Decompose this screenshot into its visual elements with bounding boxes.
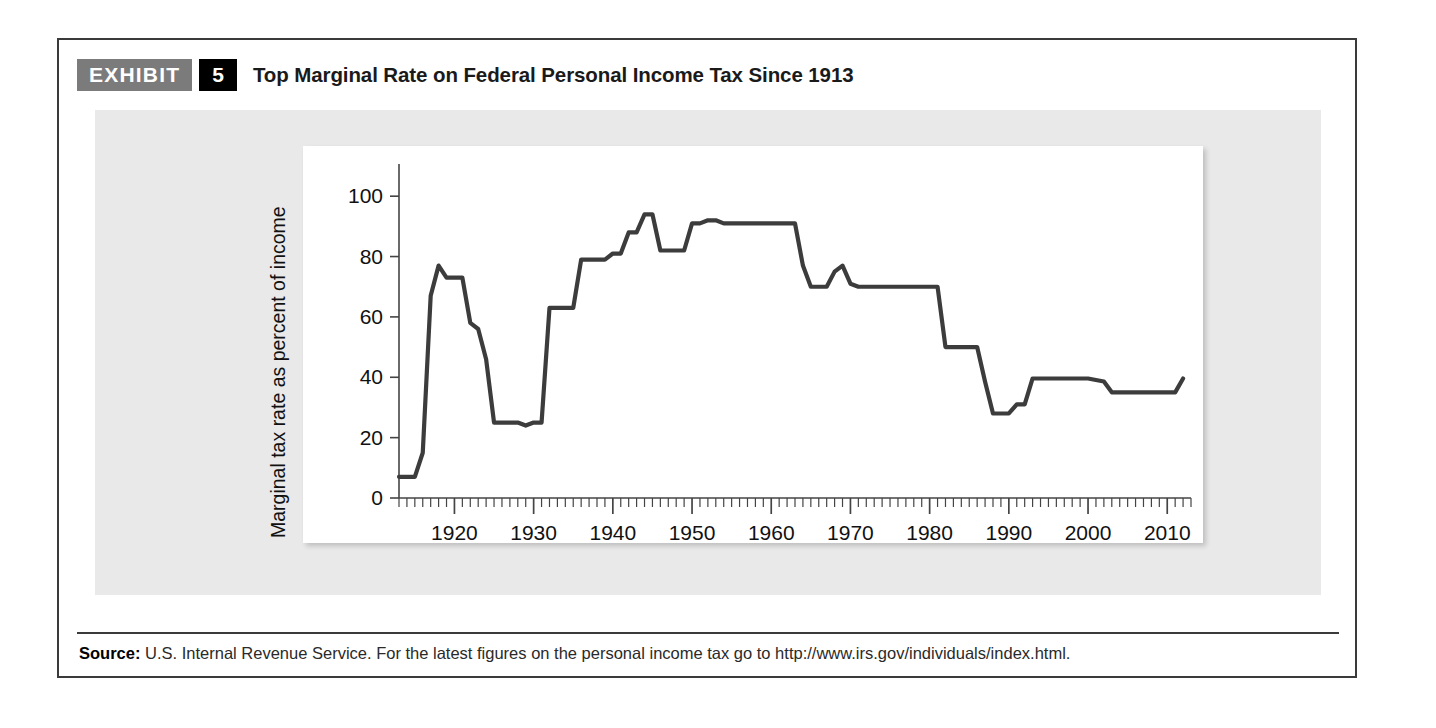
x-tick-label: 1950 [669,521,716,543]
source-text: U.S. Internal Revenue Service. For the l… [145,644,1070,662]
y-tick-label: 100 [348,184,383,207]
source-note: Source: U.S. Internal Revenue Service. F… [79,644,1070,663]
x-tick-label: 1960 [748,521,795,543]
x-tick-label: 2000 [1065,521,1112,543]
y-tick-label: 0 [371,486,383,509]
exhibit-header: EXHIBIT 5 Top Marginal Rate on Federal P… [77,58,854,92]
y-tick-label: 60 [360,305,383,328]
source-divider [77,632,1339,634]
x-tick-label: 2010 [1144,521,1191,543]
x-tick-label: 1980 [906,521,953,543]
x-tick-label: 1990 [985,521,1032,543]
x-tick-label: 1940 [589,521,636,543]
exhibit-number-badge: 5 [199,59,237,91]
y-axis-title-wrap: Marginal tax rate as percent of income [267,148,297,548]
x-tick-label: 1920 [431,521,478,543]
source-label: Source: [79,644,140,662]
exhibit-figure: EXHIBIT 5 Top Marginal Rate on Federal P… [0,0,1436,728]
plot-area: 0204060801001920193019401950196019701980… [303,146,1203,543]
line-chart-svg: 0204060801001920193019401950196019701980… [303,146,1203,543]
x-tick-label: 1930 [510,521,557,543]
data-line-top-marginal-rate [399,214,1183,477]
x-tick-label: 1970 [827,521,874,543]
y-axis-title: Marginal tax rate as percent of income [267,208,290,538]
exhibit-frame: EXHIBIT 5 Top Marginal Rate on Federal P… [57,38,1357,678]
exhibit-title: Top Marginal Rate on Federal Personal In… [253,63,854,87]
y-tick-label: 20 [360,426,383,449]
y-tick-label: 80 [360,245,383,268]
exhibit-badge-label: EXHIBIT [77,59,192,91]
y-tick-label: 40 [360,365,383,388]
